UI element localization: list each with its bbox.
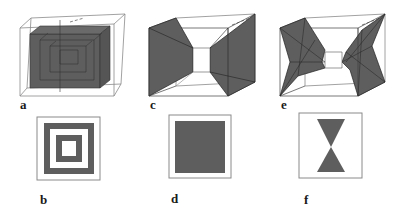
panel-label-f: f: [304, 193, 308, 206]
panel-label-e: e: [281, 98, 287, 111]
panel-a-cube: [20, 14, 125, 96]
panel-label-c: c: [150, 98, 156, 111]
panel-b-cross-section: [37, 117, 100, 180]
panel-e-cube: [280, 14, 385, 96]
panel-label-d: d: [171, 192, 178, 205]
panel-label-a: a: [20, 98, 27, 111]
panel-f-cross-section: [299, 113, 362, 178]
panel-c-cube: [149, 14, 255, 96]
panel-label-b: b: [40, 193, 47, 206]
panel-d-cross-section: [169, 115, 231, 178]
figure-canvas: [0, 0, 402, 216]
